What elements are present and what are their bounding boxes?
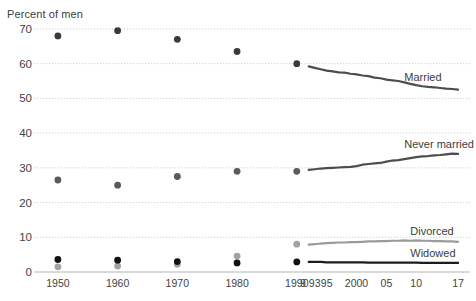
marital-status-chart: Percent of men 010203040506070 195019601… <box>0 0 476 301</box>
data-point-marker <box>174 258 181 265</box>
data-point-marker <box>114 263 121 270</box>
x-axis-tick-label: 1950 <box>46 277 69 289</box>
y-axis-tick-label: 10 <box>6 231 32 243</box>
series-label-never-married: Never married <box>404 138 474 150</box>
data-point-marker <box>54 32 61 39</box>
x-axis-tick-label: 2000 <box>345 277 368 289</box>
data-point-marker <box>293 241 300 248</box>
series-line <box>309 262 458 263</box>
x-axis-tick-label: 17 <box>452 277 464 289</box>
data-point-marker <box>293 168 300 175</box>
x-axis-tick-label: 93 <box>309 277 321 289</box>
data-point-marker <box>293 259 300 266</box>
data-point-marker <box>174 173 181 180</box>
data-point-marker <box>54 177 61 184</box>
y-axis-title: Percent of men <box>7 8 83 20</box>
y-axis-tick-label: 40 <box>6 127 32 139</box>
data-point-marker <box>293 60 300 67</box>
data-point-marker <box>234 168 241 175</box>
x-axis-tick-label: 10 <box>410 277 422 289</box>
y-axis-tick-label: 0 <box>6 266 32 278</box>
data-point-marker <box>234 48 241 55</box>
y-axis-tick-label: 30 <box>6 162 32 174</box>
x-axis-tick-label: 1960 <box>106 277 129 289</box>
x-axis-tick-label: 1970 <box>166 277 189 289</box>
data-point-marker <box>234 253 241 260</box>
series-line <box>309 154 458 170</box>
data-point-marker <box>114 27 121 34</box>
x-axis-tick-label: 05 <box>381 277 393 289</box>
series-label-divorced: Divorced <box>410 225 453 237</box>
series-line <box>309 240 458 244</box>
chart-plot-area <box>0 0 476 301</box>
y-axis-tick-label: 50 <box>6 92 32 104</box>
y-axis-tick-label: 70 <box>6 23 32 35</box>
x-axis-tick-label: 1980 <box>225 277 248 289</box>
series-label-married: Married <box>404 71 441 83</box>
data-point-marker <box>174 36 181 43</box>
data-point-marker <box>54 256 61 263</box>
x-axis-tick-label: 95 <box>321 277 333 289</box>
x-axis-tick-label: 9 <box>300 277 306 289</box>
data-point-marker <box>234 260 241 267</box>
series-label-widowed: Widowed <box>410 247 455 259</box>
data-point-marker <box>114 182 121 189</box>
data-point-marker <box>54 263 61 270</box>
y-axis-tick-label: 20 <box>6 197 32 209</box>
data-point-marker <box>114 257 121 264</box>
y-axis-tick-label: 60 <box>6 58 32 70</box>
